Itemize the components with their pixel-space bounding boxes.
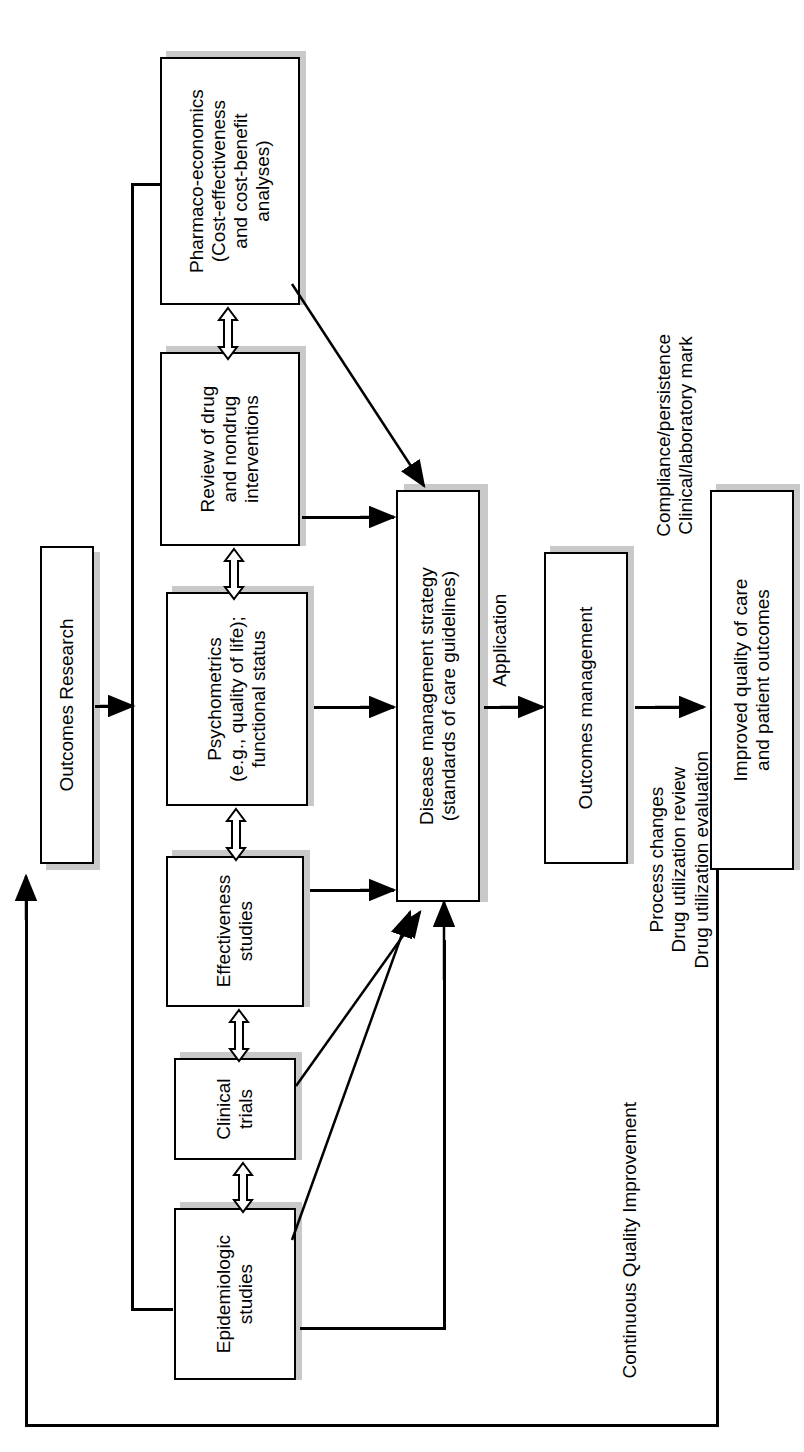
node-epidemiologic-studies[interactable]: Epidemiologic studies	[174, 1208, 296, 1380]
edge-review-to-dms	[302, 516, 394, 519]
node-psychometrics-label: Psychometrics (e.g., quality of life); f…	[204, 616, 270, 782]
node-outcomes-research-label: Outcomes Research	[56, 618, 78, 791]
caption-continuous-quality: Continuous Quality Improvement	[480, 1210, 780, 1270]
edge-outcomes-management-to-improved	[635, 706, 703, 709]
node-clinical-trials[interactable]: Clinical trials	[174, 1058, 296, 1160]
node-effectiveness-studies[interactable]: Effectiveness studies	[166, 856, 304, 1007]
edge-pharmacoeconomics-to-dms	[292, 284, 424, 486]
methods-bracket-spine	[131, 183, 134, 1311]
node-clinical-trials-label: Clinical trials	[213, 1078, 257, 1139]
node-psychometrics[interactable]: Psychometrics (e.g., quality of life); f…	[166, 592, 308, 806]
node-pharmacoeconomics-label: Pharmaco-economics (Cost-effectiveness a…	[186, 89, 274, 273]
feedback-loop-left-segment	[25, 900, 28, 1426]
feedback-loop-bottom-segment	[25, 1424, 718, 1427]
caption-application: Application	[470, 560, 530, 720]
caption-process-block: Process changes Drug utilization review …	[570, 790, 790, 930]
feedback-loop-right-segment	[716, 869, 719, 1427]
node-effectiveness-studies-label: Effectiveness studies	[213, 875, 257, 988]
node-outcomes-management-label: Outcomes management	[575, 607, 597, 810]
edge-epi-riser-foot	[300, 1327, 445, 1330]
node-outcomes-research[interactable]: Outcomes Research	[40, 546, 94, 864]
edge-effectiveness-to-dms	[310, 889, 394, 892]
methods-bracket-bottom-stub	[131, 1308, 173, 1311]
methods-bracket-top-stub	[131, 183, 163, 186]
caption-compliance-block: Compliance/persistence Clinical/laborato…	[600, 370, 750, 500]
edge-outcomes-research-to-bracket	[95, 705, 125, 708]
node-disease-management-label: Disease management strategy (standards o…	[416, 567, 460, 825]
node-pharmacoeconomics[interactable]: Pharmaco-economics (Cost-effectiveness a…	[160, 57, 300, 305]
node-review-interventions[interactable]: Review of drug and nondrug interventions	[160, 352, 300, 546]
diagram-canvas: Outcomes Research Pharmaco-economics (Co…	[0, 0, 804, 1452]
node-review-interventions-label: Review of drug and nondrug interventions	[197, 386, 263, 513]
node-improved-quality-label: Improved quality of care and patient out…	[730, 579, 774, 782]
edge-psychometrics-to-dms	[314, 706, 394, 709]
edge-epi-riser	[443, 940, 446, 1330]
node-disease-management[interactable]: Disease management strategy (standards o…	[396, 490, 480, 902]
node-epidemiologic-studies-label: Epidemiologic studies	[213, 1235, 257, 1353]
edge-clinical-trials-to-dms	[296, 912, 420, 1086]
